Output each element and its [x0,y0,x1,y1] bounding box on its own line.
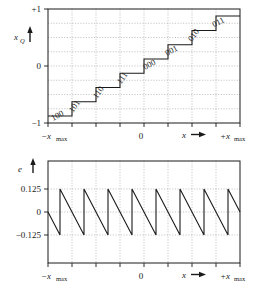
top-ytick-zero: 0 [37,61,42,71]
top-xtick-min-text: −x [41,131,51,141]
code-label-111: 111 [114,70,129,86]
top-xaxis-label: x [181,130,186,140]
top-x-axis-ticks [48,123,240,127]
bottom-x-axis-ticks [48,263,240,267]
top-xtick-min: −x max [41,131,68,142]
bottom-xtick-min: −x max [41,271,68,282]
top-xtick-zero: 0 [139,131,144,141]
bottom-xaxis-arrow [191,272,206,277]
top-yaxis-label: x [13,32,18,42]
bottom-xtick-max-sub: max [234,275,246,282]
bottom-ytick-plus: 0.125 [21,184,42,194]
bottom-xaxis-label: x [181,270,186,280]
bottom-xaxis-label-group: x [181,270,206,280]
top-y-axis-ticks [44,9,48,123]
top-yaxis-label-group: x Q [13,26,33,44]
top-ytick-plus1: +1 [31,4,41,14]
top-xaxis-arrow [191,132,206,137]
bottom-xtick-max: +x max [220,271,246,282]
top-xtick-max-sub: max [234,135,246,142]
bottom-yaxis-label: e [18,164,22,174]
bottom-xtick-zero: 0 [139,271,144,281]
code-label-100: 100 [49,108,65,123]
sawtooth-curve [48,189,240,235]
code-label-101: 101 [66,98,82,114]
top-xtick-max: +x max [220,131,246,142]
bottom-xtick-min-sub: max [56,275,68,282]
code-label-010: 010 [185,27,201,43]
bottom-yaxis-arrow [30,158,35,173]
bottom-xtick-max-text: +x [220,271,230,281]
top-yaxis-arrow [27,26,32,42]
figure-container: +1 0 −1 x Q −x max 0 +x max x [0,0,266,294]
code-label-011: 011 [210,15,226,30]
top-xtick-min-sub: max [56,135,68,142]
code-label-110: 110 [90,84,105,100]
bottom-ytick-minus: −0.125 [16,230,42,240]
top-xaxis-label-group: x [181,130,206,140]
bottom-panel: 0.125 0 −0.125 e −x max 0 +x max x [16,158,246,282]
top-panel: +1 0 −1 x Q −x max 0 +x max x [13,4,246,142]
bottom-y-axis-ticks [44,189,48,235]
bottom-xtick-min-text: −x [41,271,51,281]
top-yaxis-label-sub: Q [20,37,25,44]
figure-svg: +1 0 −1 x Q −x max 0 +x max x [0,0,266,294]
top-ytick-minus1: −1 [31,118,41,128]
bottom-yaxis-label-group: e [18,158,36,174]
bottom-ytick-zero: 0 [37,207,42,217]
top-xtick-max-text: +x [220,131,230,141]
